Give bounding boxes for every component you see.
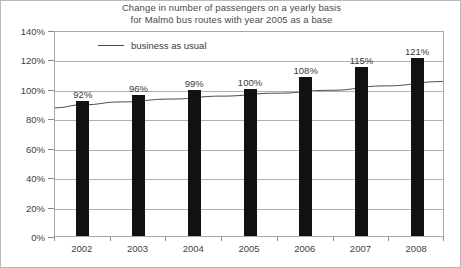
bar-value-label-2005: 100% — [238, 77, 262, 88]
x-axis-tick-label-2002: 2002 — [71, 243, 92, 254]
chart-figure: Change in number of passengers on a year… — [0, 0, 461, 268]
bar-value-label-2006: 108% — [294, 65, 318, 76]
x-axis-tick-mark — [388, 237, 389, 241]
y-axis-tick-label: 20% — [26, 202, 45, 213]
legend-line-marker-icon — [98, 45, 124, 46]
plot-area: business as usual 92%96%99%100%108%115%1… — [54, 31, 444, 237]
bar-2006 — [299, 77, 312, 236]
x-axis-tick-label-2006: 2006 — [294, 243, 315, 254]
bar-value-label-2007: 115% — [350, 55, 374, 66]
y-axis-tick-label: 100% — [21, 84, 45, 95]
chart-title-line-2: for Malmö bus routes with year 2005 as a… — [1, 14, 461, 26]
gridline — [55, 61, 443, 62]
x-axis-tick-label-2004: 2004 — [183, 243, 204, 254]
x-axis-tick-mark — [110, 237, 111, 241]
x-axis-tick-mark — [54, 237, 55, 241]
x-axis-tick-label-2007: 2007 — [350, 243, 371, 254]
y-axis-tick-label: 0% — [31, 232, 45, 243]
y-axis-tick-label: 60% — [26, 143, 45, 154]
legend-label-business-as-usual: business as usual — [131, 40, 207, 51]
bar-value-label-2004: 99% — [185, 78, 204, 89]
chart-legend: business as usual — [98, 40, 207, 51]
x-axis-tick-mark — [333, 237, 334, 241]
bar-2004 — [188, 90, 201, 236]
x-axis-tick-label-2005: 2005 — [238, 243, 259, 254]
bar-2007 — [355, 67, 368, 236]
chart-title-line-1: Change in number of passengers on a year… — [1, 2, 461, 14]
y-axis-tick-label: 40% — [26, 173, 45, 184]
x-axis-tick-label-2008: 2008 — [406, 243, 427, 254]
x-axis-tick-mark — [277, 237, 278, 241]
x-axis-tick-mark — [221, 237, 222, 241]
bar-value-label-2003: 96% — [129, 83, 148, 94]
y-axis-tick-label: 120% — [21, 55, 45, 66]
bar-2008 — [411, 58, 424, 236]
x-axis: 2002200320042005200620072008 — [54, 237, 444, 265]
bar-2003 — [132, 95, 145, 236]
bar-2005 — [244, 89, 257, 236]
bar-2002 — [76, 101, 89, 236]
x-axis-tick-mark — [165, 237, 166, 241]
y-axis-tick-label: 80% — [26, 114, 45, 125]
bar-value-label-2002: 92% — [73, 89, 92, 100]
x-axis-tick-mark — [443, 237, 444, 241]
y-axis-tick-label: 140% — [21, 26, 45, 37]
x-axis-tick-label-2003: 2003 — [127, 243, 148, 254]
bar-value-label-2008: 121% — [405, 46, 429, 57]
chart-title: Change in number of passengers on a year… — [1, 2, 461, 25]
y-axis: 0%20%40%60%80%100%120%140% — [1, 31, 54, 237]
